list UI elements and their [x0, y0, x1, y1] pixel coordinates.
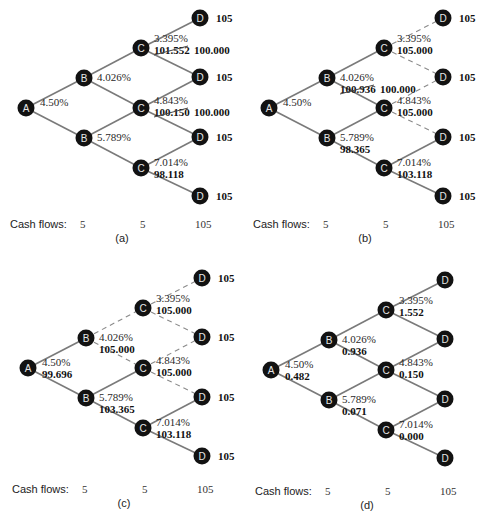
rate-label: 4.50% — [283, 96, 311, 108]
node-c-down: C — [378, 422, 395, 439]
terminal-value: 105 — [216, 131, 233, 143]
rate-label: 4.026% — [99, 331, 133, 343]
node-value: 103.118 — [156, 428, 192, 440]
node-c-down: C — [135, 420, 152, 437]
node-letter: C — [137, 43, 144, 54]
node-d-3: D — [194, 389, 211, 406]
node-letter: D — [441, 334, 448, 345]
node-value: 103.365 — [99, 403, 135, 415]
adjusted-value: 100.000 — [194, 44, 230, 56]
node-value: 0.071 — [342, 405, 367, 417]
tree-panel-a: ABBCCCDDDD4.50%4.026%5.789%3.395%101.552… — [10, 10, 233, 245]
rate-label: 5.789% — [97, 131, 131, 143]
terminal-value: 105 — [218, 331, 235, 343]
node-d-2: D — [437, 331, 454, 348]
node-letter: B — [326, 395, 333, 406]
panel-label: (d) — [360, 499, 373, 511]
node-b-up: B — [76, 70, 93, 87]
node-c-up: C — [376, 40, 393, 57]
node-letter: C — [382, 365, 389, 376]
node-c-mid: C — [376, 100, 393, 117]
node-letter: C — [380, 43, 387, 54]
binomial-tree-figure: ABBCCCDDDD4.50%4.026%5.789%3.395%101.552… — [0, 0, 485, 517]
node-d-1: D — [435, 10, 452, 27]
node-letter: D — [198, 332, 205, 343]
node-letter: A — [23, 103, 30, 114]
node-c-up: C — [135, 300, 152, 317]
tree-edge — [26, 108, 84, 138]
rate-label: 4.50% — [40, 96, 68, 108]
rate-label: 3.395% — [399, 294, 433, 306]
tree-panel-c: ABBCCCDDDD4.50%99.6964.026%105.0005.789%… — [12, 270, 235, 510]
node-d-3: D — [437, 391, 454, 408]
node-b-down: B — [76, 130, 93, 147]
node-letter: A — [268, 365, 275, 376]
node-b-up: B — [321, 332, 338, 349]
cash-flow-value: 105 — [195, 218, 212, 230]
rate-label: 4.843% — [399, 356, 433, 368]
node-d-4: D — [437, 450, 454, 467]
terminal-value: 105 — [459, 190, 476, 202]
node-letter: C — [137, 103, 144, 114]
node-value: 1.552 — [399, 306, 424, 318]
node-letter: C — [137, 163, 144, 174]
panel-label: (c) — [118, 497, 131, 509]
rate-label: 7.014% — [399, 418, 433, 430]
node-d-1: D — [437, 272, 454, 289]
cash-flow-value: 5 — [383, 218, 389, 230]
cash-flow-value: 5 — [140, 218, 146, 230]
node-c-mid: C — [378, 362, 395, 379]
adjusted-value: 100.000 — [194, 106, 230, 118]
node-letter: B — [324, 73, 331, 84]
rate-label: 4.843% — [154, 94, 188, 106]
cash-flow-value: 105 — [438, 218, 455, 230]
node-value: 98.118 — [154, 168, 184, 180]
node-letter: D — [439, 191, 446, 202]
node-value: 98.365 — [340, 143, 371, 155]
node-letter: D — [196, 72, 203, 83]
terminal-value: 105 — [218, 391, 235, 403]
node-b-down: B — [78, 390, 95, 407]
node-value: 105.000 — [397, 106, 433, 118]
node-letter: C — [380, 103, 387, 114]
node-b-down: B — [319, 130, 336, 147]
node-value: 105.000 — [397, 44, 433, 56]
node-letter: D — [439, 72, 446, 83]
node-a: A — [20, 360, 37, 377]
node-value: 103.118 — [397, 168, 433, 180]
cash-flows-label: Cash flows: — [255, 485, 312, 497]
node-letter: C — [380, 163, 387, 174]
rate-label: 3.395% — [397, 32, 431, 44]
rate-label: 4.026% — [97, 71, 131, 83]
node-value: 0.150 — [399, 368, 424, 380]
node-letter: C — [139, 423, 146, 434]
cash-flow-value: 105 — [197, 483, 214, 495]
cash-flow-value: 105 — [440, 485, 457, 497]
terminal-value: 105 — [218, 450, 235, 462]
node-letter: D — [198, 273, 205, 284]
node-d-2: D — [194, 329, 211, 346]
terminal-value: 105 — [459, 131, 476, 143]
node-value: 105.000 — [156, 366, 192, 378]
node-d-4: D — [435, 188, 452, 205]
node-letter: C — [382, 425, 389, 436]
panel-label: (a) — [115, 232, 128, 244]
panel-label: (b) — [358, 232, 371, 244]
node-letter: B — [81, 133, 88, 144]
node-letter: D — [198, 392, 205, 403]
terminal-value: 105 — [459, 12, 476, 24]
rate-label: 7.014% — [156, 416, 190, 428]
node-letter: C — [139, 303, 146, 314]
node-letter: D — [196, 191, 203, 202]
cash-flows-label: Cash flows: — [253, 218, 310, 230]
cash-flow-value: 5 — [385, 485, 391, 497]
node-d-3: D — [435, 129, 452, 146]
rate-label: 4.50% — [42, 356, 70, 368]
node-letter: B — [324, 133, 331, 144]
rate-label: 5.789% — [342, 393, 376, 405]
terminal-value: 105 — [216, 190, 233, 202]
cash-flow-value: 5 — [80, 218, 86, 230]
node-value: 0.936 — [342, 345, 367, 357]
node-value: 105.000 — [156, 304, 192, 316]
node-letter: B — [81, 73, 88, 84]
